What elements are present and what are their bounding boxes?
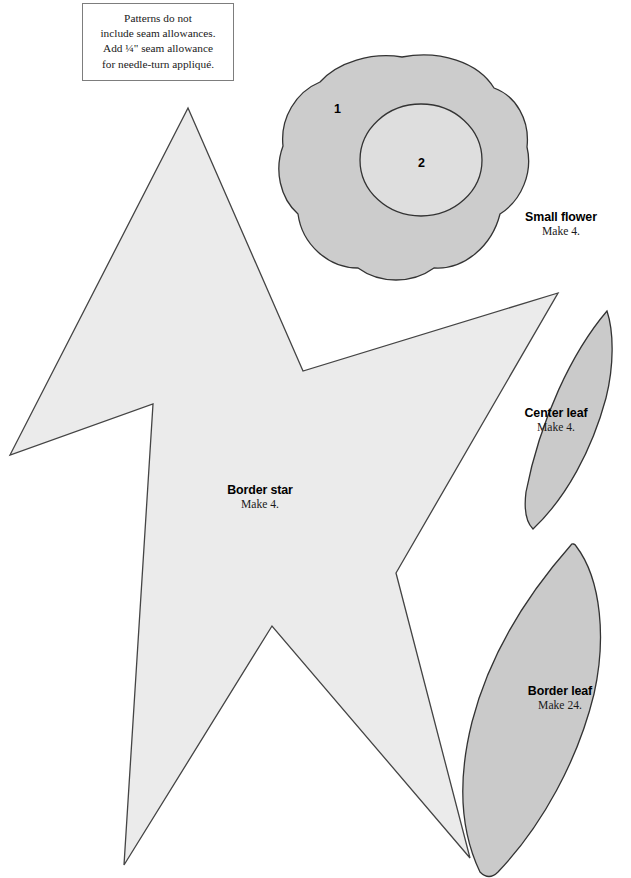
label-small-flower: Small flower Make 4.	[498, 210, 624, 239]
center-leaf-title: Center leaf	[498, 406, 614, 421]
small-flower-title: Small flower	[498, 210, 624, 225]
note-line-3: Add ¼" seam allowance	[89, 41, 227, 56]
label-center-leaf: Center leaf Make 4.	[498, 406, 614, 435]
note-line-1: Patterns do not	[89, 11, 227, 26]
pattern-sheet: Patterns do not include seam allowances.…	[0, 0, 631, 878]
border-leaf-title: Border leaf	[497, 684, 623, 699]
label-border-leaf: Border leaf Make 24.	[497, 684, 623, 713]
seam-allowance-note: Patterns do not include seam allowances.…	[82, 3, 234, 81]
flower-region-number-2: 2	[418, 156, 425, 170]
center-leaf-quantity: Make 4.	[498, 421, 614, 435]
note-line-4: for needle-turn appliqué.	[89, 57, 227, 72]
note-line-2: include seam allowances.	[89, 26, 227, 41]
pattern-shapes-canvas	[0, 0, 631, 878]
label-border-star: Border star Make 4.	[186, 483, 334, 512]
border-leaf-quantity: Make 24.	[497, 699, 623, 713]
flower-region-number-1: 1	[334, 102, 341, 116]
small-flower-quantity: Make 4.	[498, 225, 624, 239]
border-star-quantity: Make 4.	[186, 498, 334, 512]
border-star-title: Border star	[186, 483, 334, 498]
